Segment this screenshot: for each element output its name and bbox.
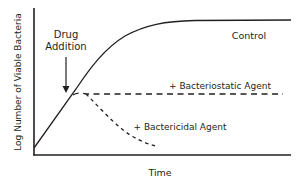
control-label: Control (232, 30, 266, 41)
bactericidal-label: + Bactericidal Agent (134, 122, 227, 132)
y-axis-label: Log Number of Viable Bacteria (13, 13, 23, 151)
bacteriostatic-curve (73, 93, 283, 95)
bacteriostatic-label: + Bacteriostatic Agent (169, 81, 271, 91)
arrow-head-icon (63, 86, 70, 93)
bacterial-growth-diagram: Drug Addition Control + Bacteriostatic A… (0, 0, 306, 188)
drug-addition-label-line2: Addition (45, 41, 86, 52)
x-axis-label: Time (147, 167, 171, 178)
drug-addition-label-line1: Drug (54, 29, 79, 40)
bactericidal-curve (86, 94, 156, 146)
